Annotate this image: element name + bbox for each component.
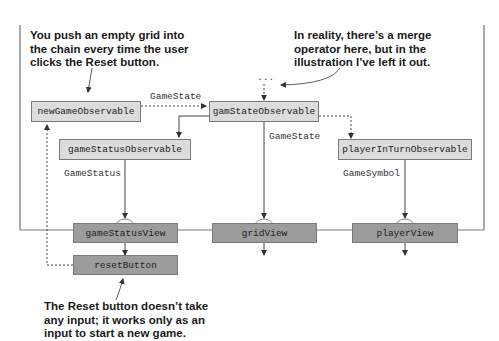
note-top-left: You push an empty grid into the chain ev…: [30, 29, 189, 70]
game-state-observable: gamStateObservable: [209, 101, 319, 122]
bottom-note-pointer: [116, 279, 123, 300]
note-top-right: In reality, there’s a merge operator her…: [294, 29, 431, 70]
note-line: You push an empty grid into: [30, 29, 189, 43]
edge-label-status: GameStatus: [64, 168, 121, 179]
note-line: clicks the Reset button.: [30, 56, 189, 70]
state-to-player-arrow: [319, 116, 351, 138]
game-status-observable: gameStatusObservable: [59, 139, 191, 160]
note-line: the chain every time the user: [30, 43, 189, 57]
edge-label-symbol: GameSymbol: [343, 168, 400, 179]
note-bottom: The Reset button doesn’t take any input;…: [44, 300, 208, 341]
player-view: playerView: [352, 223, 458, 243]
reset-button-box: resetButton: [73, 255, 178, 275]
top-left-note-pointer: [88, 68, 92, 92]
player-in-turn-observable: playerInTurnObservable: [338, 139, 472, 160]
note-line: input to start a new game.: [44, 327, 208, 341]
merge-marker: ...: [257, 72, 274, 83]
note-line: illustration I’ve left it out.: [294, 56, 431, 70]
edge-label-new-to-state: GameState: [150, 91, 201, 102]
new-game-observable: newGameObservable: [31, 101, 141, 122]
edge-label-state-to-grid: GameState: [269, 131, 320, 142]
note-line: The Reset button doesn’t take: [44, 300, 208, 314]
grid-view: gridView: [212, 223, 317, 243]
note-line: operator here, but in the: [294, 43, 431, 57]
note-line: any input; it works only as an: [44, 314, 208, 328]
top-right-note-pointer: [281, 68, 340, 85]
note-line: In reality, there’s a merge: [294, 29, 431, 43]
game-status-view: gameStatusView: [73, 223, 178, 243]
